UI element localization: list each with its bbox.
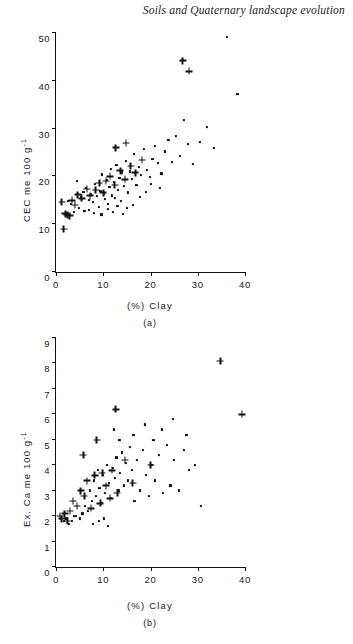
data-point-plus-a	[78, 195, 85, 202]
data-point-plus-b	[147, 462, 154, 469]
data-point-dot-a	[122, 213, 124, 215]
data-point-plus-a	[132, 169, 139, 176]
data-point-plus-b	[84, 477, 91, 484]
data-point-plus-b	[114, 490, 121, 497]
x-axis-label-b: (%) Clay	[55, 600, 245, 611]
data-point-plus-a	[60, 225, 67, 232]
data-point-plus-a	[92, 186, 99, 193]
data-point-dot-b	[121, 451, 123, 453]
data-point-dot-a	[73, 211, 75, 213]
data-point-dot-b	[91, 500, 93, 502]
x-axis-tick-a	[151, 272, 152, 276]
x-axis-tick-label-b: 0	[53, 574, 59, 585]
y-axis-label-a-text: CEC me 100 g	[21, 146, 32, 222]
data-point-dot-a	[104, 198, 106, 200]
data-point-dot-a	[236, 93, 238, 95]
data-point-dot-b	[75, 515, 77, 517]
data-point-dot-b	[115, 457, 117, 459]
y-axis-label-a: CEC me 100 g-1	[20, 138, 32, 222]
scatter-plot-a: 01020304050010203040	[55, 33, 245, 273]
y-axis-label-b-text: Ex. Ca me 100 g	[21, 440, 32, 527]
data-point-dot-b	[73, 515, 75, 517]
data-point-dot-a	[160, 172, 162, 174]
data-point-dot-b	[199, 505, 201, 507]
data-point-dot-a	[148, 176, 150, 178]
data-point-plus-b	[217, 357, 224, 364]
x-axis-tick-label-a: 20	[144, 279, 156, 290]
data-point-dot-a	[179, 155, 181, 157]
data-point-dot-b	[188, 469, 190, 471]
y-axis-tick-b	[52, 490, 56, 491]
data-point-dot-a	[111, 194, 113, 196]
data-point-dot-b	[129, 446, 131, 448]
x-axis-tick-label-a: 0	[53, 279, 59, 290]
data-point-dot-b	[144, 423, 146, 425]
y-axis-label-b-exponent: -1	[20, 431, 27, 439]
data-point-plus-b	[121, 457, 128, 464]
data-point-dot-a	[182, 119, 184, 121]
panel-caption-b: (b)	[55, 618, 245, 628]
y-axis-tick-a	[52, 128, 56, 129]
data-point-plus-a	[100, 189, 107, 196]
data-point-dot-b	[173, 459, 175, 461]
x-axis-tick-label-a: 30	[192, 279, 204, 290]
data-point-dot-b	[95, 495, 97, 497]
data-point-dot-a	[226, 36, 228, 38]
data-point-dot-b	[113, 429, 115, 431]
data-point-dot-a	[143, 148, 145, 150]
data-point-dot-a	[114, 197, 116, 199]
data-point-dot-a	[187, 143, 189, 145]
data-point-dot-b	[162, 492, 164, 494]
data-point-dot-a	[110, 168, 112, 170]
data-point-dot-b	[89, 490, 91, 492]
x-axis-tick-label-a: 10	[97, 279, 109, 290]
x-axis-tick-label-b: 30	[192, 574, 204, 585]
x-axis-tick-label-a: 40	[239, 279, 251, 290]
y-axis-tick-a	[52, 175, 56, 176]
data-point-dot-a	[123, 185, 125, 187]
figure-panel-a: CEC me 100 g-1 01020304050010203040 (%) …	[0, 22, 353, 322]
data-point-dot-a	[83, 210, 85, 212]
data-point-dot-b	[161, 429, 163, 431]
data-point-plus-b	[239, 411, 246, 418]
data-point-plus-a	[66, 212, 73, 219]
data-point-dot-b	[97, 520, 99, 522]
data-point-dot-a	[118, 177, 120, 179]
data-point-plus-a	[106, 173, 113, 180]
data-point-dot-a	[92, 201, 94, 203]
running-head: Soils and Quaternary landscape evolution	[143, 4, 345, 16]
data-point-dot-b	[113, 477, 115, 479]
data-point-dot-a	[120, 200, 122, 202]
data-point-dot-b	[107, 525, 109, 527]
data-point-plus-a	[122, 139, 129, 146]
data-point-dot-a	[175, 135, 177, 137]
x-axis-tick-b	[103, 567, 104, 571]
data-point-dot-b	[182, 449, 184, 451]
x-axis-tick-b	[245, 567, 246, 571]
data-point-plus-b	[64, 518, 71, 525]
data-point-dot-b	[139, 490, 141, 492]
x-axis-tick-a	[56, 272, 57, 276]
figure-panel-b: Ex. Ca me 100 g-1 0123456789010203040 (%…	[0, 322, 353, 640]
data-point-dot-a	[151, 158, 153, 160]
data-point-dot-b	[119, 472, 121, 474]
data-point-dot-a	[117, 189, 119, 191]
data-point-dot-b	[136, 459, 138, 461]
x-axis-tick-a	[245, 272, 246, 276]
data-point-plus-b	[80, 452, 87, 459]
data-point-plus-a	[117, 167, 124, 174]
y-axis-label-a-exponent: -1	[20, 138, 27, 146]
x-axis-tick-label-b: 10	[97, 574, 109, 585]
x-axis-tick-a	[198, 272, 199, 276]
data-point-dot-b	[133, 500, 135, 502]
data-point-plus-b	[73, 502, 80, 509]
data-point-dot-b	[123, 484, 125, 486]
data-point-plus-a	[71, 202, 78, 209]
data-point-dot-a	[139, 196, 141, 198]
x-axis-tick-b	[56, 567, 57, 571]
data-point-plus-a	[121, 176, 128, 183]
data-point-dot-b	[71, 520, 73, 522]
data-point-plus-a	[111, 182, 118, 189]
data-point-dot-a	[100, 214, 102, 216]
data-point-dot-a	[149, 183, 151, 185]
